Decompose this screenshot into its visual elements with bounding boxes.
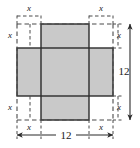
cross-net xyxy=(17,24,113,120)
geometry-figure: x x x x x x x x 12 12 xyxy=(0,0,140,148)
figure-canvas: x x x x x x x x 12 12 xyxy=(0,0,140,148)
label-x-right-lower: x xyxy=(116,102,121,112)
label-x-left-upper: x xyxy=(7,30,12,40)
label-x-bottom-left: x xyxy=(26,122,31,132)
label-x-left-lower: x xyxy=(7,102,12,112)
label-x-top-left: x xyxy=(26,3,31,13)
label-x-top-right: x xyxy=(98,3,103,13)
label-x-bottom-right: x xyxy=(98,122,103,132)
label-x-right-upper: x xyxy=(116,30,121,40)
cross-horizontal-band xyxy=(17,48,113,96)
dimension-label-bottom: 12 xyxy=(61,129,72,141)
dimension-label-right: 12 xyxy=(119,65,130,77)
